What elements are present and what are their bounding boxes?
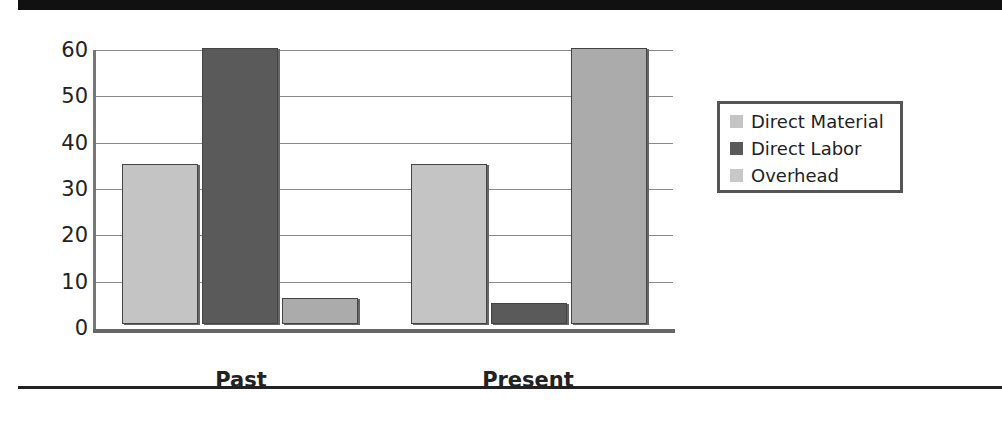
bar-overhead-present: [571, 48, 647, 324]
bar-overhead-past: [282, 298, 358, 324]
bar-direct-material-past: [122, 164, 198, 324]
bottom-rule: [18, 386, 1002, 389]
top-rule: [18, 0, 1002, 10]
y-tick-label: 0: [48, 317, 88, 339]
y-tick-label: 40: [48, 132, 88, 154]
y-tick-label: 50: [48, 85, 88, 107]
legend-item-overhead: Overhead: [730, 163, 839, 187]
swatch-icon: [730, 169, 743, 182]
y-tick-label: 60: [48, 39, 88, 61]
swatch-icon: [730, 142, 743, 155]
legend-label: Direct Labor: [751, 138, 862, 159]
y-tick-label: 30: [48, 178, 88, 200]
bar-direct-labor-past: [202, 48, 278, 324]
legend-item-direct-labor: Direct Labor: [730, 136, 862, 160]
legend: Direct Material Direct Labor Overhead: [717, 101, 903, 193]
y-tick-label: 10: [48, 271, 88, 293]
legend-label: Direct Material: [751, 111, 884, 132]
x-axis: [93, 329, 675, 333]
swatch-icon: [730, 115, 743, 128]
y-tick-label: 20: [48, 224, 88, 246]
legend-label: Overhead: [751, 165, 839, 186]
bar-direct-material-present: [411, 164, 487, 324]
legend-item-direct-material: Direct Material: [730, 109, 884, 133]
bar-direct-labor-present: [491, 303, 567, 324]
y-axis: [93, 50, 96, 332]
